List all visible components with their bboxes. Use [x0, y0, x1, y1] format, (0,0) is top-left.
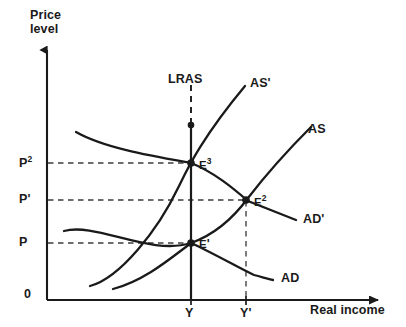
lras-curve	[188, 85, 195, 300]
ad-as-diagram: Price level Real income 0 P2 P' P Y Y' L…	[0, 0, 406, 327]
y-tick-label-p: P	[19, 235, 27, 249]
as-curve	[64, 127, 311, 246]
equilibrium-e2-text: E	[254, 196, 262, 208]
point-e3	[187, 159, 195, 167]
y-axis-label-line1: Price	[30, 8, 61, 22]
x-tick-y-text: Y	[185, 306, 193, 320]
curve-label-as-prime-text: AS	[250, 76, 268, 90]
x-tick-y-prime-mark: '	[248, 306, 251, 320]
point-e-prime	[187, 239, 195, 247]
y-tick-p-text: P	[19, 235, 27, 249]
y-tick-p-prime-mark: '	[27, 192, 30, 206]
point-e2	[242, 196, 250, 204]
equilibrium-label-e3: E3	[199, 157, 212, 172]
curve-label-lras: LRAS	[168, 72, 202, 86]
curve-label-ad-prime-text: AD	[303, 212, 321, 226]
origin-label: 0	[24, 287, 31, 301]
x-tick-label-y: Y	[185, 306, 193, 320]
curve-label-as-prime: AS'	[250, 76, 271, 90]
equilibrium-e-prime-text: E	[199, 238, 207, 250]
y-tick-label-p-prime: P'	[19, 192, 31, 206]
curve-label-as-prime-mark: '	[268, 76, 271, 90]
y-axis-label: Price level	[30, 8, 61, 36]
as-prime-curve	[90, 86, 245, 286]
y-axis-label-line2: level	[30, 22, 61, 36]
equilibrium-e3-superscript: 3	[207, 156, 212, 166]
curve-label-as: AS	[308, 122, 326, 136]
curve-label-lras-text: LRAS	[168, 72, 202, 86]
equilibrium-e3-text: E	[199, 159, 207, 171]
equilibrium-label-e2: E2	[254, 194, 267, 209]
equilibrium-markers	[187, 159, 250, 247]
equilibrium-e2-superscript: 2	[262, 193, 267, 203]
x-tick-label-y-prime: Y'	[240, 306, 252, 320]
curve-label-ad-prime-mark: '	[321, 212, 324, 226]
equilibrium-e-prime-mark: '	[207, 237, 210, 251]
curve-label-ad-text: AD	[281, 271, 299, 285]
x-axis-label: Real income	[310, 303, 385, 317]
equilibrium-label-e-prime: E'	[199, 237, 210, 251]
curve-label-ad-prime: AD'	[303, 212, 324, 226]
y-tick-label-p2: P2	[19, 155, 32, 170]
curve-label-as-text: AS	[308, 122, 326, 136]
y-tick-p2-superscript: 2	[27, 154, 32, 164]
curve-label-ad: AD	[281, 271, 299, 285]
